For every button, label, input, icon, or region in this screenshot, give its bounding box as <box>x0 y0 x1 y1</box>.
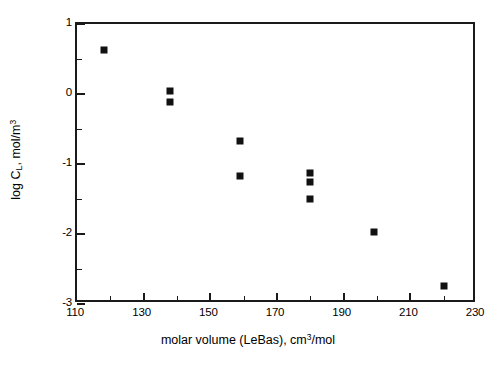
x-tick-major <box>143 293 145 300</box>
y-tick-minor <box>77 269 82 270</box>
y-tick-minor <box>77 129 82 130</box>
y-tick-label: -1 <box>58 156 72 168</box>
x-tick-label: 190 <box>332 306 351 318</box>
x-tick-label: 130 <box>132 306 151 318</box>
data-point <box>237 137 244 144</box>
x-tick-label: 230 <box>466 306 485 318</box>
x-tick-minor <box>244 296 245 300</box>
y-tick-label: 1 <box>58 16 72 28</box>
x-axis-title: molar volume (LeBas), cm3/mol <box>0 332 496 347</box>
y-tick-minor <box>77 59 82 60</box>
x-tick-minor <box>377 296 378 300</box>
data-point <box>440 282 447 289</box>
y-tick-label: -2 <box>58 226 72 238</box>
data-point <box>307 196 314 203</box>
x-tick-label: 210 <box>399 306 418 318</box>
x-tick-major <box>209 293 211 300</box>
data-point <box>100 46 107 53</box>
y-tick-label: 0 <box>58 86 72 98</box>
y-tick-major <box>77 23 85 25</box>
x-tick-label: 170 <box>266 306 285 318</box>
y-tick-major <box>77 303 85 305</box>
x-tick-label: 150 <box>199 306 218 318</box>
data-point <box>307 170 314 177</box>
y-tick-minor <box>77 199 82 200</box>
data-point <box>370 228 377 235</box>
x-tick-major <box>409 293 411 300</box>
x-tick-minor <box>444 296 445 300</box>
y-tick-major <box>77 233 85 235</box>
y-tick-major <box>77 163 85 165</box>
data-point <box>307 178 314 185</box>
data-point <box>167 98 174 105</box>
plot-area <box>75 22 475 302</box>
caption-partial-text <box>18 362 318 368</box>
x-tick-minor <box>177 296 178 300</box>
x-tick-major <box>276 293 278 300</box>
y-tick-label: -3 <box>58 296 72 308</box>
figure-container: 110130150170190210230 10-1-2-3 molar vol… <box>0 0 496 370</box>
x-tick-major <box>343 293 345 300</box>
y-tick-major <box>77 93 85 95</box>
x-tick-minor <box>110 296 111 300</box>
data-point <box>237 172 244 179</box>
data-point <box>167 88 174 95</box>
y-axis-title: log CL, mol/m3 <box>8 80 24 240</box>
x-tick-minor <box>310 296 311 300</box>
